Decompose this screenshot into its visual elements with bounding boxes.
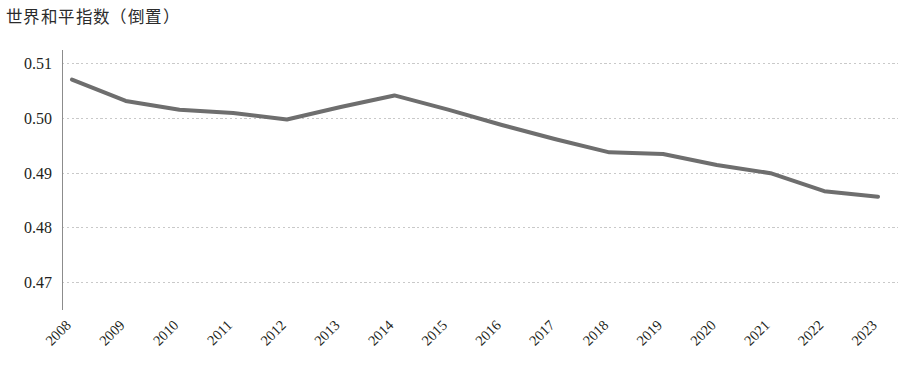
x-axis-tick-label: 2019	[633, 317, 665, 349]
x-axis-tick-label: 2011	[204, 317, 235, 348]
x-axis-tick-label: 2008	[42, 317, 74, 349]
x-axis-tick-label: 2012	[257, 317, 289, 349]
x-axis-tick-label: 2017	[526, 317, 558, 349]
x-axis-tick-label: 2023	[848, 317, 880, 349]
y-axis-tick-label: 0.47	[24, 274, 52, 291]
x-axis-tick-label: 2009	[96, 317, 128, 349]
x-axis-tick-label: 2022	[795, 317, 827, 349]
y-axis-tick-label: 0.49	[24, 165, 52, 182]
line-chart-plot: 0.510.500.490.480.47 2008200920102011201…	[0, 0, 904, 379]
x-axis-tick-labels: 2008200920102011201220132014201520162017…	[42, 316, 880, 348]
x-axis-tick-label: 2016	[472, 317, 504, 349]
y-axis-tick-label: 0.51	[24, 55, 52, 72]
x-axis-tick-label: 2021	[741, 317, 773, 349]
x-axis-tick-label: 2015	[418, 317, 450, 349]
x-axis-tick-label: 2010	[150, 317, 182, 349]
series-line-peace-index	[72, 80, 878, 197]
x-axis-tick-label: 2018	[580, 317, 612, 349]
y-axis-tick-label: 0.50	[24, 110, 52, 127]
y-axis-tick-labels: 0.510.500.490.480.47	[24, 55, 52, 291]
y-axis-tick-label: 0.48	[24, 219, 52, 236]
x-axis-tick-label: 2014	[365, 316, 397, 348]
x-axis-tick-label: 2020	[687, 317, 719, 349]
chart-container: 世界和平指数（倒置） 0.510.500.490.480.47 20082009…	[0, 0, 904, 379]
x-axis-tick-label: 2013	[311, 317, 343, 349]
